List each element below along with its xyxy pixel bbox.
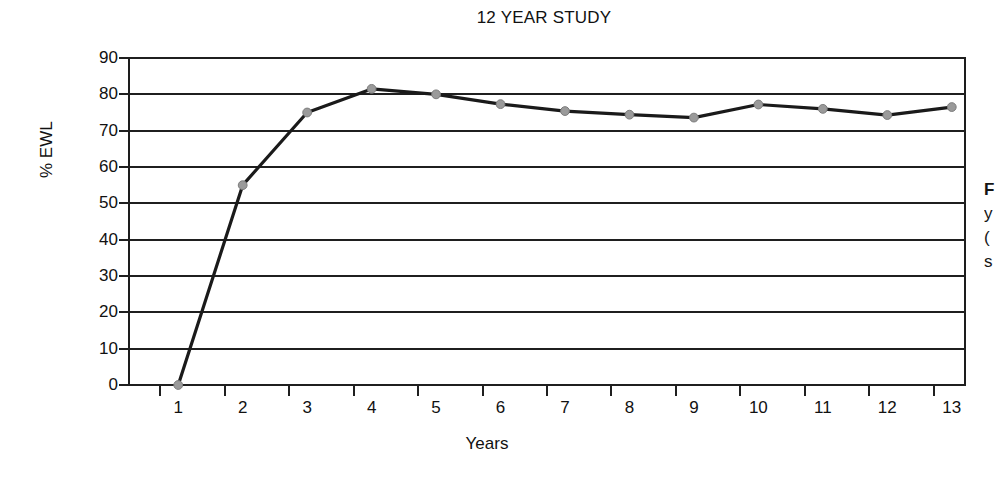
x-tick-label: 4 xyxy=(367,398,376,418)
data-point-marker xyxy=(303,108,312,117)
data-point-marker xyxy=(818,104,827,113)
data-point-marker xyxy=(238,181,247,190)
data-point-marker xyxy=(754,100,763,109)
side-caption-line-3: ( xyxy=(984,226,1006,250)
y-tick-label: 40 xyxy=(99,230,118,250)
x-tick-mark xyxy=(224,385,226,396)
x-tick-label: 12 xyxy=(878,398,897,418)
data-point-marker xyxy=(947,103,956,112)
y-tick-label: 30 xyxy=(99,266,118,286)
x-tick-label: 11 xyxy=(814,398,832,418)
x-axis-tick-labels: 12345678910111213 xyxy=(128,398,966,424)
data-point-marker xyxy=(367,84,376,93)
x-tick-mark xyxy=(804,385,806,396)
x-tick-label: 13 xyxy=(942,398,961,418)
x-tick-mark xyxy=(933,385,935,396)
x-tick-label: 5 xyxy=(431,398,440,418)
x-tick-label: 6 xyxy=(496,398,505,418)
x-tick-mark xyxy=(417,385,419,396)
x-tick-mark xyxy=(868,385,870,396)
y-tick-label: 10 xyxy=(99,339,118,359)
y-tick-label: 70 xyxy=(99,121,118,141)
x-tick-label: 3 xyxy=(302,398,311,418)
x-tick-mark xyxy=(739,385,741,396)
x-tick-label: 1 xyxy=(173,398,182,418)
side-caption-fragment: F y ( s xyxy=(984,178,1006,274)
data-point-marker xyxy=(625,110,634,119)
y-tick-label: 0 xyxy=(109,375,118,395)
y-tick-label: 20 xyxy=(99,302,118,322)
x-axis-title: Years xyxy=(68,434,906,454)
side-caption-line-4: s xyxy=(984,250,1006,274)
y-tick-label: 90 xyxy=(99,48,118,68)
x-tick-label: 10 xyxy=(749,398,768,418)
y-axis-tick-labels: 0102030405060708090 xyxy=(72,58,118,385)
data-point-marker xyxy=(690,113,699,122)
x-tick-mark xyxy=(610,385,612,396)
y-axis-title: % EWL xyxy=(37,121,57,178)
x-tick-mark xyxy=(353,385,355,396)
x-tick-mark xyxy=(288,385,290,396)
side-caption-line-2: y xyxy=(984,202,1006,226)
x-axis-tick-marks xyxy=(128,385,966,397)
chart-title: 12 YEAR STUDY xyxy=(41,8,1006,28)
x-tick-mark xyxy=(675,385,677,396)
plot-area xyxy=(128,58,966,385)
data-point-marker xyxy=(432,90,441,99)
data-point-marker xyxy=(883,111,892,120)
side-caption-line-1: F xyxy=(984,178,1006,202)
x-tick-mark xyxy=(482,385,484,396)
x-tick-label: 2 xyxy=(238,398,247,418)
data-series-layer xyxy=(128,58,966,385)
y-tick-label: 60 xyxy=(99,157,118,177)
y-tick-label: 50 xyxy=(99,193,118,213)
data-line xyxy=(178,89,952,385)
x-tick-mark xyxy=(159,385,161,396)
x-tick-label: 8 xyxy=(625,398,634,418)
x-tick-label: 9 xyxy=(689,398,698,418)
y-tick-label: 80 xyxy=(99,84,118,104)
data-point-marker xyxy=(561,107,570,116)
data-point-marker xyxy=(496,100,505,109)
x-tick-label: 7 xyxy=(560,398,569,418)
x-tick-mark xyxy=(546,385,548,396)
chart-figure: 12 YEAR STUDY % EWL 0102030405060708090 … xyxy=(0,0,1006,480)
